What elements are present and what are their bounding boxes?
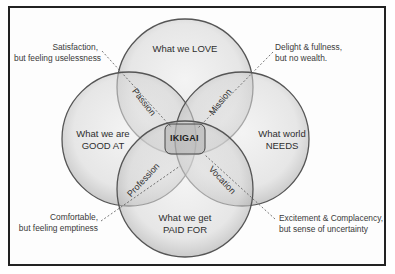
label-good-line2: GOOD AT [66, 140, 140, 152]
annotation-mission-line2: but no wealth. [275, 53, 342, 64]
label-needs: What world NEEDS [249, 128, 315, 152]
label-love: What we LOVE [150, 43, 220, 55]
annotation-vocation-line2: but sense of uncertainty [279, 224, 383, 235]
annotation-mission: Delight & fullness, but no wealth. [275, 42, 342, 64]
annotation-vocation-line1: Excitement & Complacency, [279, 213, 383, 224]
annotation-passion: Satisfaction, but feeling uselessness [14, 42, 98, 64]
label-paid-line1: What we get [150, 212, 220, 224]
label-needs-line2: NEEDS [249, 140, 315, 152]
annotation-profession: Comfortable, but feeling emptiness [14, 212, 98, 234]
annotation-profession-line1: Comfortable, [14, 212, 98, 223]
annotation-vocation: Excitement & Complacency, but sense of u… [279, 213, 383, 235]
label-good: What we are GOOD AT [66, 128, 140, 152]
annotation-passion-line1: Satisfaction, [14, 42, 98, 53]
ikigai-label: IKIGAI [170, 133, 199, 143]
annotation-mission-line1: Delight & fullness, [275, 42, 342, 53]
label-needs-line1: What world [249, 128, 315, 140]
label-love-line1: What we LOVE [153, 43, 218, 54]
label-paid-line2: PAID FOR [150, 224, 220, 236]
label-good-line1: What we are [66, 128, 140, 140]
annotation-profession-line2: but feeling emptiness [14, 223, 98, 234]
annotation-passion-line2: but feeling uselessness [14, 53, 98, 64]
label-paid: What we get PAID FOR [150, 212, 220, 236]
